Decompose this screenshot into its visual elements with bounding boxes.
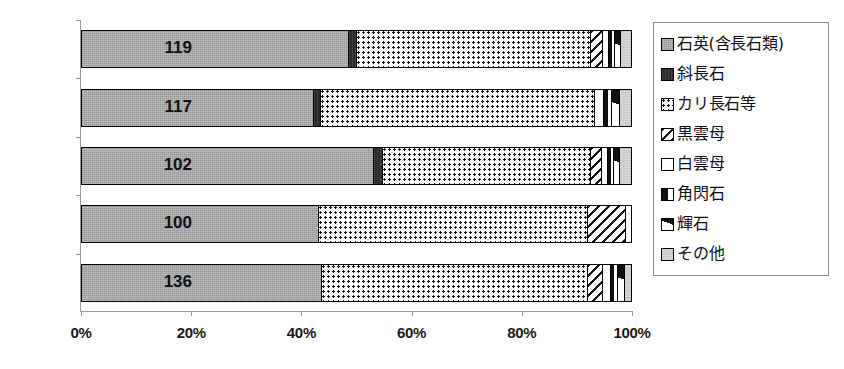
legend-label: 斜長石 (677, 66, 724, 82)
pyroxene-swatch (661, 218, 674, 231)
legend-label: 輝石 (677, 216, 709, 232)
y-axis-tick (76, 254, 81, 255)
x-axis-label: 100% (613, 324, 650, 341)
legend-label: その他 (677, 246, 724, 262)
y-axis-tick (76, 20, 81, 21)
x-axis-label: 40% (287, 324, 316, 341)
y-axis-category-label: 117 (165, 97, 192, 117)
x-axis-label: 0% (70, 324, 91, 341)
x-axis-tick (81, 311, 82, 316)
bar-segment-hornblende[interactable] (610, 265, 617, 301)
chart-legend: 石英(含長石類)斜長石カリ長石等黒雲母白雲母角閃石輝石その他 (653, 22, 829, 276)
bar-segment-k-feldspar[interactable] (321, 265, 587, 301)
y-axis-category-label: 102 (164, 155, 192, 175)
stacked-bar-chart: 0%20%40%60%80%100% 石英(含長石類)斜長石カリ長石等黒雲母白雲… (0, 0, 844, 369)
bar-segment-muscovite[interactable] (625, 206, 630, 242)
biotite-swatch (661, 128, 674, 141)
x-axis-label: 80% (507, 324, 536, 341)
bar-segment-biotite[interactable] (587, 265, 602, 301)
bar-segment-quartz[interactable] (82, 265, 321, 301)
plagioclase-swatch (661, 68, 674, 81)
legend-item-hornblende[interactable]: 角閃石 (661, 179, 823, 209)
bar-segment-muscovite[interactable] (602, 265, 610, 301)
bar-segment-k-feldspar[interactable] (356, 31, 590, 67)
legend-label: カリ長石等 (677, 96, 756, 112)
y-axis-tick (76, 78, 81, 79)
legend-item-pyroxene[interactable]: 輝石 (661, 209, 823, 239)
legend-item-k-feldspar[interactable]: カリ長石等 (661, 89, 823, 119)
legend-item-other[interactable]: その他 (661, 239, 823, 269)
legend-item-biotite[interactable]: 黒雲母 (661, 119, 823, 149)
bar-segment-k-feldspar[interactable] (318, 206, 587, 242)
bar-segment-hornblende[interactable] (603, 90, 611, 126)
x-axis-label: 20% (177, 324, 206, 341)
bar-segment-pyroxene[interactable] (617, 265, 624, 301)
bar-segment-plagioclase[interactable] (313, 90, 321, 126)
x-axis-tick (522, 311, 523, 316)
y-axis-category-label: 136 (164, 272, 192, 292)
bar-segment-biotite[interactable] (587, 206, 625, 242)
y-axis-tick (76, 195, 81, 196)
bar-segment-biotite[interactable] (590, 148, 601, 184)
muscovite-swatch (661, 158, 674, 171)
other-swatch (661, 248, 674, 261)
x-axis-label: 60% (397, 324, 426, 341)
legend-label: 石英(含長石類) (677, 36, 784, 52)
bar-segment-quartz[interactable] (82, 148, 373, 184)
bar-segment-plagioclase[interactable] (348, 31, 356, 67)
x-axis-tick (632, 311, 633, 316)
bar-segment-muscovite[interactable] (601, 148, 608, 184)
bar-segment-muscovite[interactable] (594, 90, 603, 126)
y-axis-category-label: 119 (165, 38, 192, 58)
bar-segment-quartz[interactable] (82, 31, 348, 67)
legend-label: 黒雲母 (677, 126, 724, 142)
bar-segment-k-feldspar[interactable] (382, 148, 590, 184)
x-axis-tick (412, 311, 413, 316)
bar-segment-plagioclase[interactable] (373, 148, 382, 184)
legend-item-plagioclase[interactable]: 斜長石 (661, 59, 823, 89)
bar-segment-quartz[interactable] (82, 206, 318, 242)
hornblende-swatch (661, 188, 674, 201)
legend-item-quartz[interactable]: 石英(含長石類) (661, 29, 823, 59)
bar-segment-pyroxene[interactable] (611, 90, 619, 126)
x-axis-tick (301, 311, 302, 316)
legend-label: 白雲母 (677, 156, 724, 172)
bar-segment-biotite[interactable] (590, 31, 602, 67)
bar-segment-quartz[interactable] (82, 90, 313, 126)
k-feldspar-swatch (661, 98, 674, 111)
x-axis-tick (191, 311, 192, 316)
y-axis-category-label: 100 (164, 213, 192, 233)
bar-segment-other[interactable] (619, 148, 631, 184)
y-axis-tick (76, 137, 81, 138)
bar-segment-hornblende[interactable] (608, 31, 615, 67)
bar-segment-other[interactable] (619, 90, 631, 126)
legend-item-muscovite[interactable]: 白雲母 (661, 149, 823, 179)
bar-segment-k-feldspar[interactable] (320, 90, 594, 126)
quartz-swatch (661, 38, 674, 51)
bar-segment-other[interactable] (620, 31, 631, 67)
legend-label: 角閃石 (677, 186, 724, 202)
bar-segment-other[interactable] (624, 265, 631, 301)
